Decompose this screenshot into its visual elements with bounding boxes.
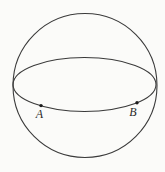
equator-ellipse	[13, 58, 156, 112]
point-a-label: A	[35, 107, 44, 121]
point-b-dot	[135, 101, 138, 104]
sphere-diagram: A B	[0, 0, 165, 172]
sphere-diagram-canvas: A B	[0, 0, 165, 172]
sphere-outline-circle	[13, 14, 157, 158]
point-b-label: B	[129, 105, 137, 119]
